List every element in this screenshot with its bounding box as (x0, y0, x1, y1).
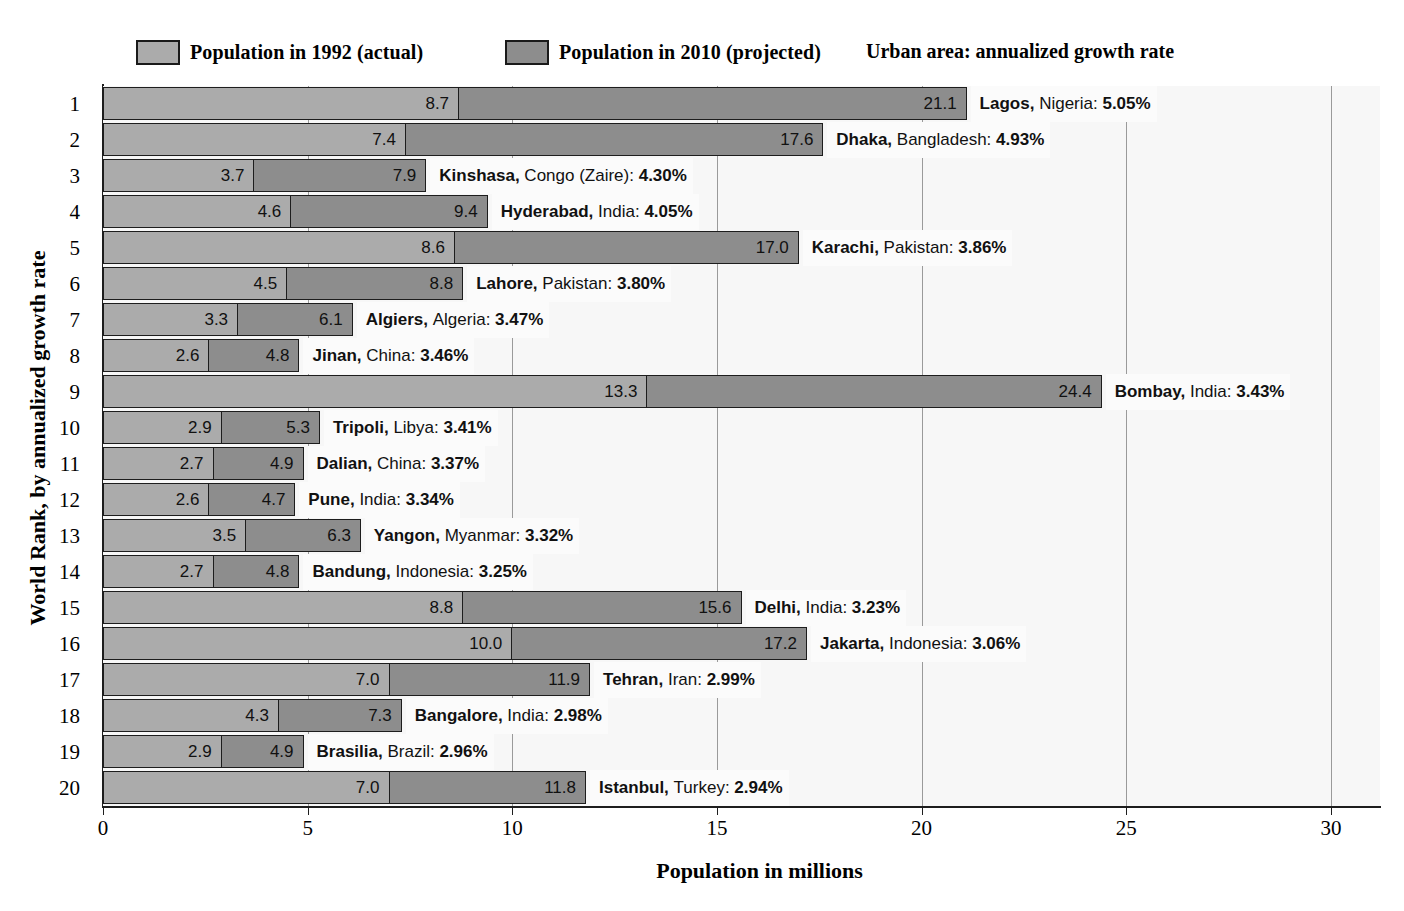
x-tick-mark-30 (1331, 806, 1332, 815)
x-tick-mark-15 (717, 806, 718, 815)
legend-note-text: Urban area: annualized growth rate (866, 40, 1174, 63)
bar-row-label: Brasilia, Brazil: 2.96% (308, 734, 494, 770)
bar-segment-1992[interactable]: 7.0 (103, 663, 390, 696)
label-city: Lagos, (980, 94, 1035, 114)
bar-row-label: Kinshasa, Congo (Zaire): 4.30% (430, 158, 693, 194)
bar-value-2010: 5.3 (286, 419, 319, 436)
legend-item-1992: Population in 1992 (actual) (136, 40, 423, 65)
label-country: Indonesia: (884, 634, 972, 654)
bar-row-label: Algiers, Algeria: 3.47% (357, 302, 550, 338)
label-growth-rate: 5.05% (1102, 94, 1150, 114)
label-city: Brasilia, (317, 742, 383, 762)
bar-row-label: Tripoli, Libya: 3.41% (324, 410, 498, 446)
label-country: India: (503, 706, 554, 726)
bar-value-1992: 7.0 (356, 671, 389, 688)
bar-row: 17.67.4Dhaka, Bangladesh: 4.93% (103, 122, 1380, 158)
bar-segment-1992[interactable]: 7.4 (103, 123, 406, 156)
bar-value-2010: 15.6 (698, 599, 740, 616)
bar-row: 7.34.3Bangalore, India: 2.98% (103, 698, 1380, 734)
y-tick-19: 19 (0, 734, 92, 770)
bar-value-1992: 2.7 (180, 563, 213, 580)
bar-segment-1992[interactable]: 3.3 (103, 303, 238, 336)
label-city: Bandung, (312, 562, 390, 582)
bar-value-2010: 11.8 (544, 779, 585, 796)
y-tick-2: 2 (0, 122, 92, 158)
y-tick-5: 5 (0, 230, 92, 266)
bar-value-2010: 11.9 (548, 671, 589, 688)
label-growth-rate: 3.34% (406, 490, 454, 510)
label-city: Istanbul, (599, 778, 669, 798)
y-tick-13: 13 (0, 518, 92, 554)
label-growth-rate: 3.41% (443, 418, 491, 438)
legend-note: Urban area: annualized growth rate (866, 40, 1174, 63)
bar-value-2010: 8.8 (430, 275, 463, 292)
label-growth-rate: 3.86% (958, 238, 1006, 258)
label-city: Karachi, (812, 238, 879, 258)
label-city: Pune, (308, 490, 354, 510)
bar-segment-1992[interactable]: 4.5 (103, 267, 287, 300)
bar-segment-1992[interactable]: 2.6 (103, 483, 209, 516)
bar-segment-1992[interactable]: 2.9 (103, 735, 222, 768)
bar-segment-1992[interactable]: 10.0 (103, 627, 512, 660)
bar-segment-1992[interactable]: 4.6 (103, 195, 291, 228)
bar-segment-1992[interactable]: 4.3 (103, 699, 279, 732)
x-axis-title: Population in millions (0, 858, 1404, 884)
label-country: Pakistan: (538, 274, 617, 294)
bar-segment-1992[interactable]: 8.7 (103, 87, 459, 120)
bar-row-label: Dhaka, Bangladesh: 4.93% (827, 122, 1050, 158)
bar-segment-1992[interactable]: 8.6 (103, 231, 455, 264)
bar-segment-1992[interactable]: 3.5 (103, 519, 246, 552)
bar-row: 5.32.9Tripoli, Libya: 3.41% (103, 410, 1380, 446)
label-growth-rate: 2.99% (707, 670, 755, 690)
y-tick-15: 15 (0, 590, 92, 626)
bar-value-1992: 8.8 (430, 599, 463, 616)
label-city: Dhaka, (836, 130, 892, 150)
label-growth-rate: 4.93% (996, 130, 1044, 150)
bar-segment-1992[interactable]: 7.0 (103, 771, 390, 804)
bar-row: 4.92.9Brasilia, Brazil: 2.96% (103, 734, 1380, 770)
bar-row: 11.87.0Istanbul, Turkey: 2.94% (103, 770, 1380, 806)
bar-value-2010: 4.9 (270, 455, 303, 472)
x-tick-25: 25 (1096, 816, 1156, 841)
bar-segment-1992[interactable]: 2.6 (103, 339, 209, 372)
label-country: China: (372, 454, 431, 474)
label-country: Congo (Zaire): (520, 166, 639, 186)
bar-segment-1992[interactable]: 2.9 (103, 411, 222, 444)
bar-value-1992: 8.7 (425, 95, 458, 112)
y-tick-17: 17 (0, 662, 92, 698)
label-growth-rate: 4.05% (644, 202, 692, 222)
label-city: Jinan, (312, 346, 361, 366)
bar-value-1992: 3.5 (213, 527, 246, 544)
label-growth-rate: 2.94% (734, 778, 782, 798)
bar-segment-1992[interactable]: 13.3 (103, 375, 647, 408)
bar-row-label: Tehran, Iran: 2.99% (594, 662, 761, 698)
bar-value-1992: 2.9 (188, 743, 221, 760)
bar-value-2010: 4.8 (266, 347, 299, 364)
label-city: Dalian, (317, 454, 373, 474)
bar-row-label: Bandung, Indonesia: 3.25% (303, 554, 533, 590)
bar-segment-1992[interactable]: 2.7 (103, 555, 214, 588)
bar-value-2010: 4.7 (262, 491, 295, 508)
bar-value-2010: 6.3 (327, 527, 360, 544)
label-growth-rate: 3.46% (420, 346, 468, 366)
x-tick-20: 20 (892, 816, 952, 841)
bar-row: 6.33.5Yangon, Myanmar: 3.32% (103, 518, 1380, 554)
label-country: India: (1185, 382, 1236, 402)
bar-segment-1992[interactable]: 8.8 (103, 591, 463, 624)
bar-row: 17.210.0Jakarta, Indonesia: 3.06% (103, 626, 1380, 662)
label-country: Iran: (663, 670, 706, 690)
y-tick-6: 6 (0, 266, 92, 302)
legend-swatch-1992-icon (136, 40, 180, 65)
bar-segment-1992[interactable]: 2.7 (103, 447, 214, 480)
bar-segment-1992[interactable]: 3.7 (103, 159, 254, 192)
bar-value-2010: 4.9 (270, 743, 303, 760)
label-growth-rate: 4.30% (639, 166, 687, 186)
bar-value-1992: 7.4 (372, 131, 405, 148)
bar-value-1992: 8.6 (421, 239, 454, 256)
bar-value-2010: 21.1 (924, 95, 966, 112)
label-growth-rate: 3.23% (852, 598, 900, 618)
bar-row-label: Bombay, India: 3.43% (1106, 374, 1291, 410)
legend-label-2010: Population in 2010 (projected) (559, 41, 821, 64)
label-country: Bangladesh: (892, 130, 996, 150)
bar-value-2010: 7.9 (393, 167, 426, 184)
